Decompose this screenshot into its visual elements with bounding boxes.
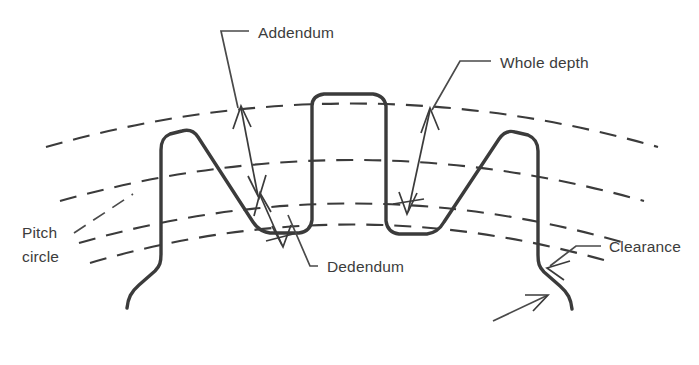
gear-tooth-profile	[127, 94, 572, 309]
label-pitch-circle-line2: circle	[22, 248, 59, 265]
gear-nomenclature-diagram: Addendum Whole depth Pitch circle Dedend…	[0, 0, 699, 365]
diagram-canvas: Addendum Whole depth Pitch circle Dedend…	[0, 0, 699, 365]
label-whole-depth: Whole depth	[500, 54, 589, 71]
whole-depth-root-tick	[393, 199, 424, 204]
labels-group: Addendum Whole depth Pitch circle Dedend…	[22, 24, 681, 275]
pitch-circle-leader-line	[74, 194, 133, 233]
leader-lines-group	[74, 31, 601, 321]
gear-tooth-outline-group	[127, 94, 572, 309]
clearance-lower-pointer-line	[493, 296, 546, 321]
clearance-leader-line	[550, 246, 601, 266]
reference-circles-group	[46, 104, 658, 264]
whole-depth-leader-line	[432, 61, 491, 110]
dedendum-leader-line	[288, 215, 318, 266]
label-addendum: Addendum	[258, 24, 334, 41]
addendum-dimension-line	[241, 108, 258, 196]
addendum-dimension-group	[233, 106, 266, 198]
addendum-circle-arc	[46, 104, 658, 148]
whole-depth-dimension-line	[408, 110, 430, 212]
pitch-circle-arc	[60, 160, 644, 201]
addendum-leader-line	[221, 31, 249, 108]
label-clearance: Clearance	[609, 238, 681, 255]
label-pitch-circle-line1: Pitch	[22, 224, 57, 241]
label-dedendum: Dedendum	[327, 258, 404, 275]
